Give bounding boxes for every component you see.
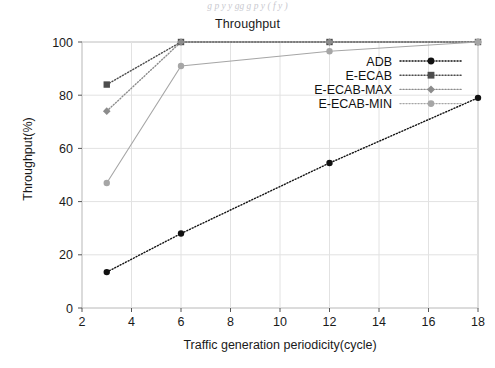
x-tick-label: 6 <box>178 315 185 329</box>
data-point-marker <box>104 269 110 275</box>
data-point-marker <box>428 100 435 107</box>
data-point-marker <box>326 48 332 54</box>
data-point-marker <box>475 39 481 45</box>
y-axis-ticks: 020406080100 <box>52 36 82 316</box>
data-point-marker <box>104 180 110 186</box>
data-point-marker <box>428 72 435 79</box>
y-tick-label: 100 <box>52 36 73 50</box>
data-point-marker <box>428 58 435 65</box>
x-tick-label: 18 <box>471 315 485 329</box>
legend-label: E-ECAB <box>345 69 392 83</box>
y-tick-label: 0 <box>66 302 73 316</box>
figure-container: g p y y gg g p y ( f y ) Throughput Thro… <box>0 0 495 368</box>
x-tick-label: 2 <box>79 315 86 329</box>
legend-label: ADB <box>366 55 392 69</box>
x-axis-ticks: 24681012141618 <box>79 308 485 329</box>
plot-canvas: 020406080100 24681012141618 ADBE-ECABE-E… <box>0 0 495 368</box>
x-tick-label: 10 <box>273 315 287 329</box>
data-point-marker <box>475 95 481 101</box>
y-tick-label: 20 <box>59 248 73 262</box>
x-tick-label: 12 <box>323 315 337 329</box>
y-tick-label: 40 <box>59 195 73 209</box>
x-tick-label: 14 <box>372 315 386 329</box>
data-point-marker <box>178 63 184 69</box>
legend-label: E-ECAB-MAX <box>314 83 392 97</box>
data-point-marker <box>178 230 184 236</box>
x-tick-label: 8 <box>227 315 234 329</box>
x-tick-label: 4 <box>128 315 135 329</box>
data-point-marker <box>326 160 332 166</box>
legend-label: E-ECAB-MIN <box>318 97 392 111</box>
data-point-marker <box>104 81 110 87</box>
x-tick-label: 16 <box>422 315 436 329</box>
y-tick-label: 80 <box>59 89 73 103</box>
y-tick-label: 60 <box>59 142 73 156</box>
